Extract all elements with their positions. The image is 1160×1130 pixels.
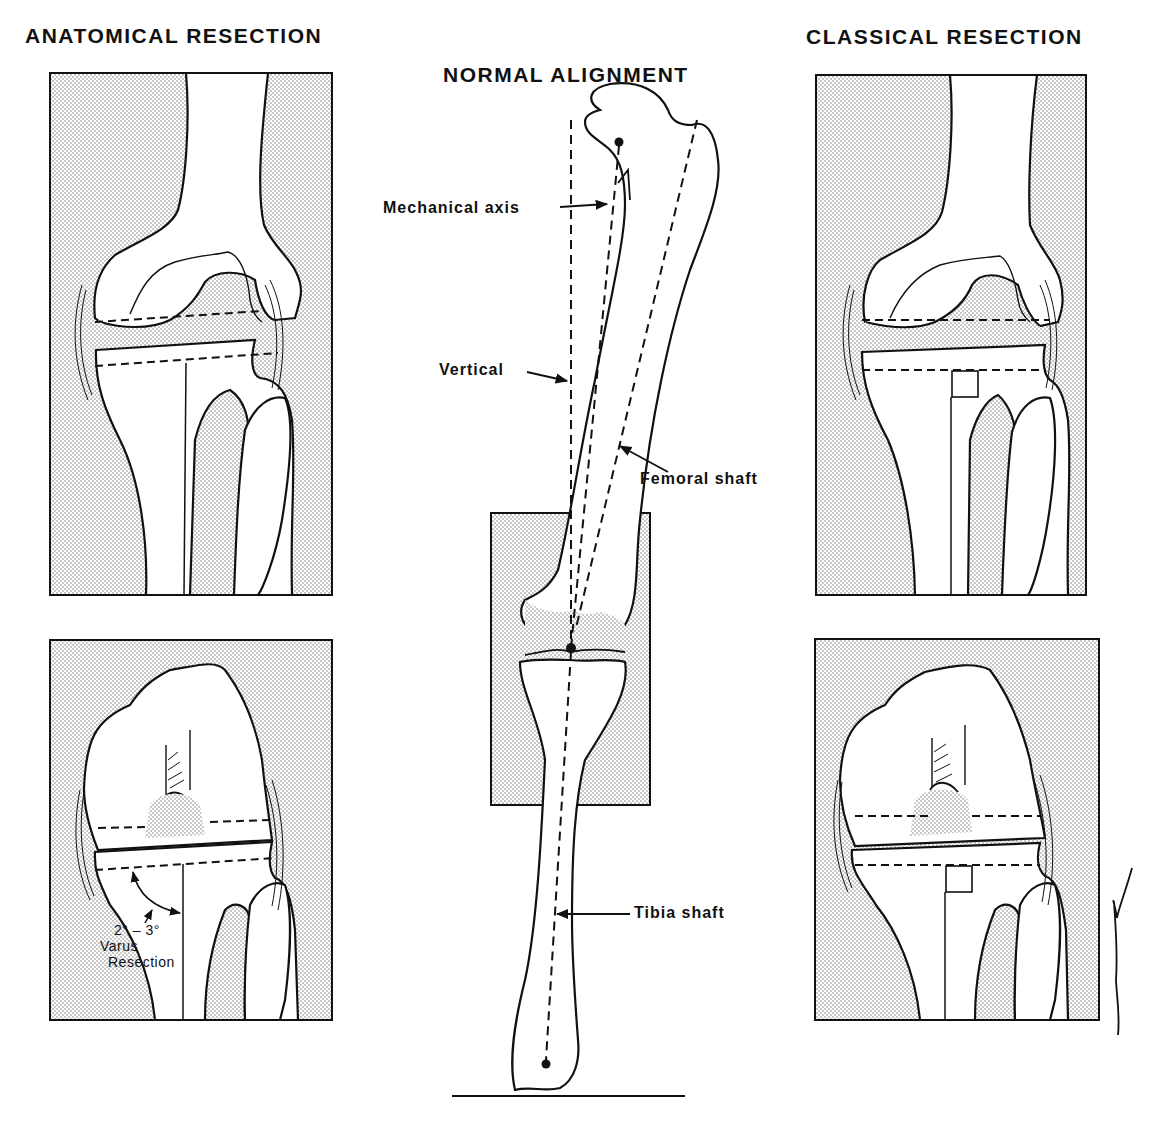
annotation-resection-text: Resection (92, 954, 182, 970)
title-classical-resection: CLASSICAL RESECTION (806, 25, 1083, 49)
label-vertical: Vertical (439, 361, 504, 379)
normal-alignment-diagram (452, 83, 719, 1096)
panel-anatomical-extension (50, 73, 332, 595)
annotation-varus-angle: 2° – 3° Varus Resection (92, 922, 182, 970)
title-anatomical-resection: ANATOMICAL RESECTION (25, 24, 322, 48)
annotation-angle-text: 2° – 3° (92, 922, 182, 938)
label-femoral-shaft: Femoral shaft (640, 470, 758, 488)
title-normal-alignment: NORMAL ALIGNMENT (443, 63, 689, 87)
annotation-varus-text: Varus (92, 938, 182, 954)
panel-classical-extension (816, 75, 1086, 595)
label-mechanical-axis: Mechanical axis (383, 199, 520, 217)
artist-signature (1113, 868, 1132, 1035)
panel-classical-flexion (815, 639, 1099, 1020)
label-tibia-shaft: Tibia shaft (634, 904, 725, 922)
